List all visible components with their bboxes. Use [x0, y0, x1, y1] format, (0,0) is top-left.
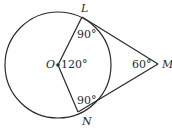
center-point — [56, 63, 60, 67]
radius-ON — [58, 65, 78, 112]
label-L: L — [80, 2, 88, 15]
circle-tangent-diagram: L O M N 90° 120° 60° 90° — [0, 0, 172, 129]
angle-LON: 120° — [61, 58, 88, 71]
angle-LMN: 60° — [132, 58, 152, 71]
label-M: M — [161, 58, 172, 71]
angle-OLM: 90° — [77, 28, 97, 41]
angle-ONM: 90° — [77, 94, 97, 107]
label-O: O — [46, 58, 55, 71]
label-N: N — [81, 115, 92, 128]
